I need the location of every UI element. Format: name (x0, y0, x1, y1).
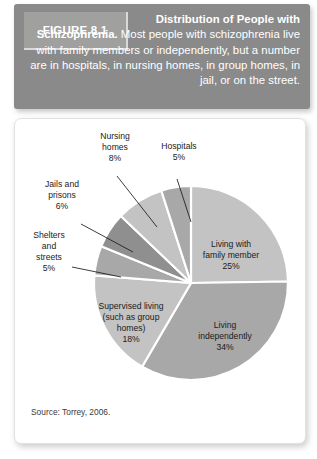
svg-text:8%: 8% (109, 153, 122, 163)
svg-text:6%: 6% (56, 201, 69, 211)
svg-text:family member: family member (203, 250, 259, 260)
svg-text:streets: streets (36, 252, 62, 262)
svg-text:and: and (42, 241, 57, 251)
svg-text:18%: 18% (122, 334, 140, 344)
callout-label-hospitals: Hospitals 5% (161, 141, 196, 162)
pie-chart-figure: Living with family member 25% Living ind… (15, 119, 306, 444)
figure-caption-banner: FIGURE 8.1 Distribution of People with S… (14, 4, 310, 109)
svg-text:5%: 5% (173, 152, 186, 162)
svg-text:Supervised living: Supervised living (99, 301, 164, 311)
svg-text:Nursing: Nursing (100, 131, 130, 141)
svg-text:25%: 25% (222, 261, 240, 271)
svg-text:Shelters: Shelters (33, 230, 65, 240)
svg-text:(such as group: (such as group (103, 312, 160, 322)
pie-chart-svg: Living with family member 25% Living ind… (15, 119, 306, 444)
svg-text:homes: homes (102, 142, 128, 152)
svg-text:independently: independently (198, 331, 252, 341)
callout-label-nursing-homes: Nursing homes 8% (100, 131, 130, 163)
pie-slice-group (94, 186, 288, 380)
figure-caption-text: Distribution of People with Schizophreni… (24, 12, 300, 88)
svg-text:34%: 34% (216, 342, 234, 352)
svg-text:5%: 5% (43, 263, 56, 273)
callout-label-jails-and-prisons: Jails and prisons 6% (45, 179, 79, 211)
svg-text:Living with: Living with (211, 239, 251, 249)
svg-text:Jails and: Jails and (45, 179, 79, 189)
svg-text:Hospitals: Hospitals (161, 141, 196, 151)
callout-label-shelters-and-streets: Shelters and streets 5% (33, 230, 65, 273)
svg-text:homes): homes) (117, 323, 146, 333)
svg-text:prisons: prisons (48, 190, 76, 200)
chart-card: Living with family member 25% Living ind… (14, 118, 306, 444)
svg-text:Living: Living (214, 320, 237, 330)
source-note: Source: Torrey, 2006. (31, 407, 110, 417)
